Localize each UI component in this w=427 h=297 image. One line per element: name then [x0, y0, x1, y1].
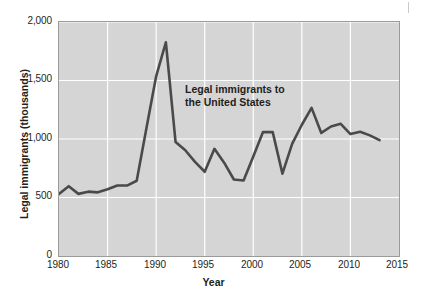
- chart-figure: 2,000 1,500 1,000 500 0 1980 1985 1990 1…: [0, 0, 427, 297]
- x-tick-label: 1980: [37, 260, 79, 270]
- x-tick-label: 2000: [231, 260, 273, 270]
- x-axis-title: Year: [0, 276, 427, 288]
- y-tick-label: 500: [8, 191, 52, 201]
- y-axis-title: Legal immigrants (thousands): [18, 64, 30, 224]
- gridlines: [59, 22, 399, 256]
- plot-area: Legal immigrants to the United States: [58, 21, 400, 257]
- y-tick-label: 2,000: [8, 16, 52, 26]
- x-tick-label: 1995: [182, 260, 224, 270]
- x-tick-label: 1985: [85, 260, 127, 270]
- line-chart-svg: [59, 22, 399, 256]
- series-annotation-label: Legal immigrants to the United States: [185, 83, 285, 109]
- y-tick-label: 0: [8, 250, 52, 260]
- x-tick-label: 2015: [376, 260, 418, 270]
- y-tick-label: 1,000: [8, 133, 52, 143]
- x-tick-label: 2010: [328, 260, 370, 270]
- y-tick-label: 1,500: [8, 74, 52, 84]
- x-tick-label: 2005: [279, 260, 321, 270]
- x-tick-label: 1990: [134, 260, 176, 270]
- crop-mark-icon: [408, 2, 409, 13]
